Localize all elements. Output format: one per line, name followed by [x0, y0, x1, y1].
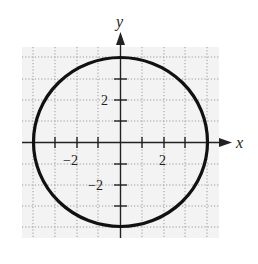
y-axis-arrow-icon — [116, 32, 125, 45]
x-tick-label-pos2: 2 — [159, 153, 166, 168]
y-tick-label-pos2: 2 — [101, 93, 108, 108]
x-axis-label: x — [235, 134, 243, 151]
coordinate-plane: x y −2 2 2 −2 — [0, 0, 258, 264]
x-tick-label-neg2: −2 — [63, 153, 78, 168]
y-tick-label-neg2: −2 — [88, 178, 103, 193]
y-axis-label: y — [114, 13, 124, 31]
x-axis-arrow-icon — [219, 138, 232, 147]
